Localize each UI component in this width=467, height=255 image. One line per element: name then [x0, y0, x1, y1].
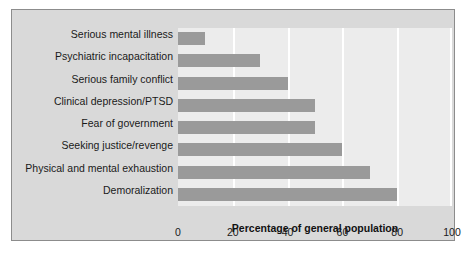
gridline-100	[450, 28, 452, 206]
category-label: Seeking justice/revenge	[18, 139, 173, 152]
bar-serious-family-conflict	[178, 77, 288, 90]
bar-fear-of-government	[178, 121, 315, 134]
plot-area: Serious mental illness Psychiatric incap…	[178, 28, 452, 206]
category-label: Psychiatric incapacitation	[18, 50, 173, 63]
chart-panel: Serious mental illness Psychiatric incap…	[11, 9, 455, 241]
bar-clinical-depression-ptsd	[178, 99, 315, 112]
bar-demoralization	[178, 188, 397, 201]
chart-figure: Serious mental illness Psychiatric incap…	[0, 0, 467, 255]
category-label: Physical and mental exhaustion	[18, 162, 173, 175]
x-axis-title: Percentage of general population	[178, 222, 452, 234]
category-label: Demoralization	[18, 184, 173, 197]
bar-seeking-justice-revenge	[178, 143, 342, 156]
category-label: Fear of government	[18, 117, 173, 130]
category-label: Serious family conflict	[18, 73, 173, 86]
gridline-40	[288, 28, 290, 206]
gridline-80	[397, 28, 399, 206]
bar-serious-mental-illness	[178, 32, 205, 45]
bar-physical-and-mental-exhaustion	[178, 166, 370, 179]
category-label: Serious mental illness	[18, 28, 173, 41]
category-label: Clinical depression/PTSD	[18, 95, 173, 108]
gridline-60	[342, 28, 344, 206]
bar-psychiatric-incapacitation	[178, 54, 260, 67]
